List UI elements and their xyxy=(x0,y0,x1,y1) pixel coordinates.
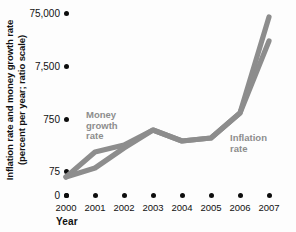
annotation-line1: Money xyxy=(86,110,118,121)
annotation-line2: rate xyxy=(230,144,267,155)
line-chart: Inflation rate and money growth rate (pe… xyxy=(0,0,296,232)
annotation-line1: Inflation xyxy=(230,133,267,144)
annotation-line3: rate xyxy=(86,131,118,142)
annotation-money-growth-rate: Money growth rate xyxy=(86,110,118,142)
annotation-inflation-rate: Inflation rate xyxy=(230,133,267,154)
plot-area xyxy=(0,0,296,232)
